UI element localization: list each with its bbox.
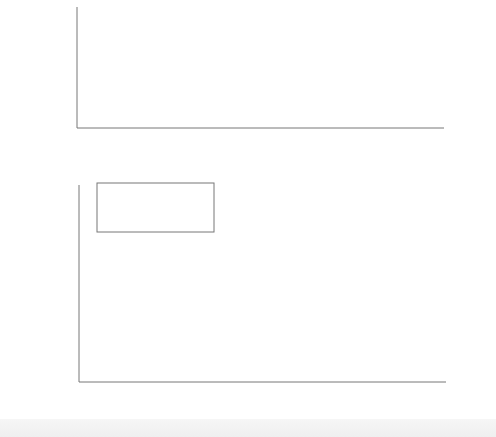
legend-box xyxy=(97,183,214,232)
price-chart-legend xyxy=(97,183,214,232)
bond-price-chart xyxy=(79,183,446,382)
yield-chart xyxy=(77,7,444,128)
chart-canvas xyxy=(0,0,496,437)
chart-figure xyxy=(0,0,496,437)
bottom-band xyxy=(0,419,496,437)
